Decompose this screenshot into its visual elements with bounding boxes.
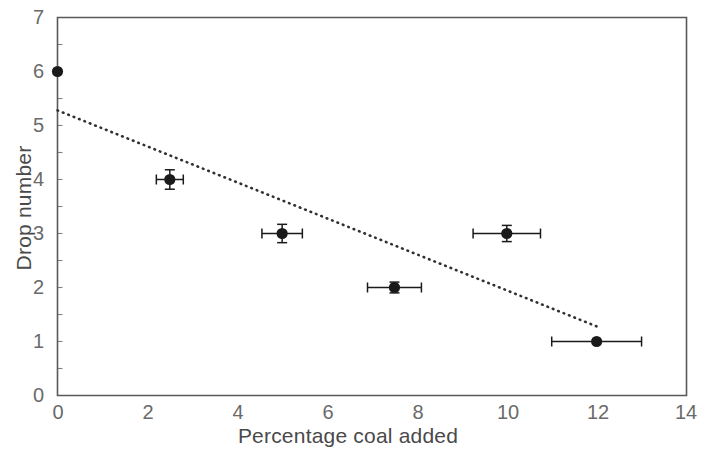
error-bars — [156, 170, 641, 347]
trendline — [58, 110, 597, 326]
data-points — [52, 66, 602, 347]
